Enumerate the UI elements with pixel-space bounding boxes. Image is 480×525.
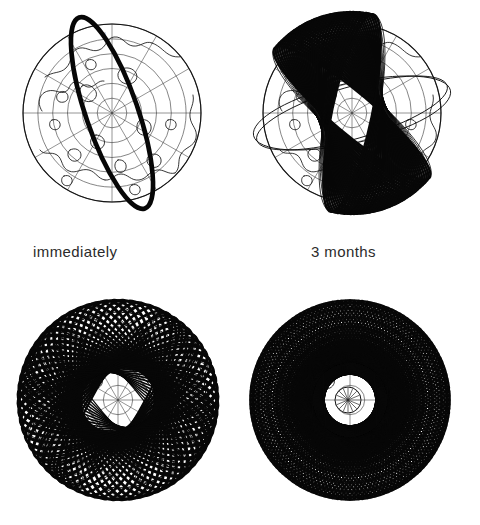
panel-orbit-shell-partial [0,280,240,525]
panel-orbit-shell-full [240,280,480,525]
caption-3-months: 3 months [311,243,376,260]
globe-coastlines [39,37,213,195]
polar-hole [335,387,361,413]
caption-immediately: immediately [33,243,117,260]
panel-3-months: 0 [240,0,480,225]
panel-immediately: 0 [0,0,240,225]
orbital-precession-figure: 0 [0,0,480,525]
